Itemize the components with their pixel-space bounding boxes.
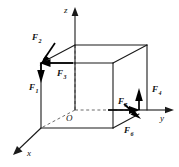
force-label-F5-subscript: 5	[125, 102, 128, 108]
force-vector-F4	[135, 88, 143, 110]
svg-text:F3: F3	[56, 68, 67, 80]
z-axis-arrowhead	[72, 7, 79, 16]
y-axis-label: y	[159, 113, 164, 123]
svg-text:F4: F4	[151, 84, 162, 96]
svg-text:F2: F2	[31, 32, 42, 44]
force-vector-F1	[37, 63, 45, 83]
svg-text:F5: F5	[117, 96, 128, 108]
force-label-F2: F2	[31, 32, 42, 44]
force-label-F2-subscript: 2	[38, 38, 42, 44]
force-F4-arrowhead	[135, 88, 143, 101]
force-label-F6-subscript: 6	[131, 131, 134, 137]
force-label-F4-subscript: 4	[158, 90, 162, 96]
x-axis-label: x	[26, 148, 31, 158]
force-label-F3-name: F	[56, 68, 63, 78]
force-label-F5-name: F	[117, 96, 124, 106]
labels: z y x O F2 F3 F1	[26, 5, 164, 158]
force-label-F5: F5	[117, 96, 128, 108]
force-label-F4-name: F	[151, 84, 158, 94]
figure-canvas: z y x O F2 F3 F1	[0, 0, 179, 167]
y-axis-arrowhead	[165, 107, 174, 113]
force-label-F3-subscript: 3	[63, 74, 67, 80]
force-label-F3: F3	[56, 68, 67, 80]
origin-label: O	[66, 113, 73, 123]
force-label-F6-name: F	[123, 125, 130, 135]
force-label-F1-subscript: 1	[36, 88, 39, 94]
svg-text:F1: F1	[28, 82, 39, 94]
cube-visible-edges	[41, 45, 147, 128]
coordinate-axes	[13, 7, 174, 155]
force-label-F1-name: F	[28, 82, 35, 92]
z-axis-label: z	[63, 5, 68, 15]
force-label-F1: F1	[28, 82, 39, 94]
force-label-F4: F4	[151, 84, 162, 96]
force-label-F6: F6	[123, 125, 134, 137]
x-axis-line	[19, 128, 41, 149]
force-label-F2-name: F	[31, 32, 38, 42]
force-F1-arrowhead	[37, 70, 45, 83]
force-diagram-figure: z y x O F2 F3 F1	[0, 0, 179, 167]
cube-edge-top-right	[113, 45, 147, 63]
svg-text:F6: F6	[123, 125, 134, 137]
